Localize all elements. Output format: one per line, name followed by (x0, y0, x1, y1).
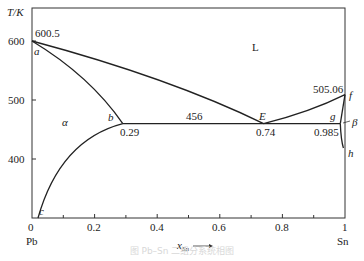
phase-boundaries (32, 41, 350, 218)
x-tick-0.2: 0.2 (87, 221, 101, 233)
y-axis-label: T/K (7, 6, 24, 18)
x-tick-0.8: 0.8 (275, 221, 289, 233)
beta-leader-line (343, 121, 350, 123)
label-liquid-L: L (252, 41, 259, 53)
label-h: h (348, 147, 354, 159)
label-0.985: 0.985 (314, 126, 339, 138)
phase-diagram-figure: 600 500 400 T/K 0 0.2 0.4 0.6 0.8 1 Pb S… (0, 0, 364, 261)
solvus-beta (340, 124, 343, 148)
x-tick-0.4: 0.4 (150, 221, 164, 233)
label-alpha: α (62, 116, 68, 128)
label-beta: β (351, 116, 358, 128)
x-axis (63, 214, 313, 218)
label-b: b (108, 111, 114, 123)
figure-caption: 图 Pb–Sn 二组分系统相图 (0, 244, 364, 257)
label-g: g (330, 110, 336, 122)
solvus-alpha (38, 124, 123, 218)
x-tick-1: 1 (342, 221, 348, 233)
y-tick-400: 400 (8, 153, 25, 165)
y-tick-500: 500 (8, 94, 25, 106)
solidus-beta (340, 95, 345, 124)
label-a: a (34, 45, 40, 57)
phase-diagram-chart: 600 500 400 T/K 0 0.2 0.4 0.6 0.8 1 Pb S… (0, 0, 364, 261)
label-0.74: 0.74 (256, 126, 276, 138)
label-c: c (39, 205, 44, 217)
y-tick-600: 600 (8, 35, 25, 47)
x-tick-0: 0 (28, 221, 34, 233)
label-E: E (258, 110, 266, 122)
label-0.29: 0.29 (120, 126, 140, 138)
x-tick-0.6: 0.6 (212, 221, 226, 233)
liquidus-pb-side (32, 41, 264, 124)
label-456: 456 (186, 110, 203, 122)
label-f: f (349, 89, 354, 101)
label-505.06: 505.06 (313, 83, 344, 95)
label-600.5: 600.5 (35, 27, 60, 39)
y-axis (32, 41, 36, 159)
